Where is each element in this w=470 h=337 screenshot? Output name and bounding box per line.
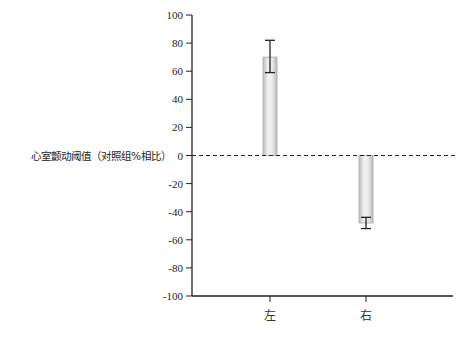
y-tick-label: 60: [172, 65, 184, 77]
bar-right: [359, 156, 373, 223]
y-tick-label: 20: [172, 121, 184, 133]
y-tick-label: 80: [172, 37, 184, 49]
bar-chart: 100806040200-20-40-60-80-100 左右 心室颤动阈值（对…: [0, 0, 470, 337]
y-tick-label: -100: [163, 290, 184, 302]
y-tick-label: -80: [168, 262, 183, 274]
x-axis-ticks: 左右: [264, 296, 372, 323]
y-tick-label: 40: [172, 93, 184, 105]
y-tick-label: 100: [167, 9, 184, 21]
y-axis-label: 心室颤动阈值（对照组%相比）: [31, 150, 171, 162]
bars: [263, 40, 373, 228]
y-tick-label: -20: [168, 178, 183, 190]
y-tick-label: -40: [168, 206, 183, 218]
x-tick-label: 左: [264, 308, 276, 323]
y-tick-label: 0: [178, 150, 184, 162]
y-tick-label: -60: [168, 234, 183, 246]
x-tick-label: 右: [360, 308, 372, 323]
